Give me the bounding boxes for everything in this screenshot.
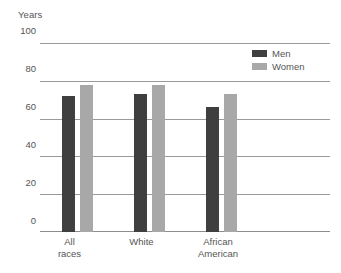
x-axis-label-all-races: All races <box>42 236 97 259</box>
women-swatch-icon <box>252 63 267 70</box>
x-axis-label-african-american-line1: African <box>178 236 258 248</box>
legend-item-women: Women <box>252 60 305 73</box>
y-axis-title: Years <box>18 9 42 20</box>
bar-african-american-men <box>206 107 219 232</box>
gridline-100 <box>40 43 330 44</box>
gridline-80 <box>40 81 330 82</box>
x-axis-label-african-american-line2: American <box>178 248 258 260</box>
y-tick-label-40: 40 <box>14 139 36 150</box>
y-tick-label-60: 60 <box>14 101 36 112</box>
x-axis-label-all-races-line2: races <box>42 248 97 260</box>
legend-label-men: Men <box>272 48 290 59</box>
men-swatch-icon <box>252 50 267 57</box>
x-axis-label-african-american: African American <box>178 236 258 259</box>
bar-african-american-women <box>224 94 237 232</box>
x-axis-label-all-races-line1: All <box>42 236 97 248</box>
x-axis-label-white-line1: White <box>114 236 169 248</box>
x-axis-label-white: White <box>114 236 169 248</box>
bar-all-races-women <box>80 85 93 232</box>
y-tick-label-20: 20 <box>14 177 36 188</box>
legend-item-men: Men <box>252 47 305 60</box>
bar-white-men <box>134 94 147 232</box>
y-tick-label-0: 0 <box>14 215 36 226</box>
bar-chart: Years 100 80 60 40 20 0 All races White … <box>0 0 341 273</box>
y-tick-label-80: 80 <box>14 63 36 74</box>
legend-label-women: Women <box>272 61 305 72</box>
bar-all-races-men <box>62 96 75 232</box>
legend: Men Women <box>252 47 305 73</box>
bar-white-women <box>152 85 165 232</box>
y-tick-label-100: 100 <box>14 25 36 36</box>
